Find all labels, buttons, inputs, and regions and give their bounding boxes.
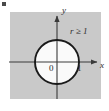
y-axis-label: y — [61, 5, 66, 15]
corner-artifact-mark — [2, 2, 6, 6]
x-tick-label-one: 1 — [77, 63, 82, 73]
region-inequality-label: r ≥ 1 — [70, 26, 87, 36]
x-axis-label: x — [99, 60, 104, 70]
figure-canvas: y x 0 1 r ≥ 1 — [0, 0, 109, 111]
origin-label: 0 — [49, 63, 54, 73]
polar-region-figure: y x 0 1 r ≥ 1 — [0, 0, 109, 111]
